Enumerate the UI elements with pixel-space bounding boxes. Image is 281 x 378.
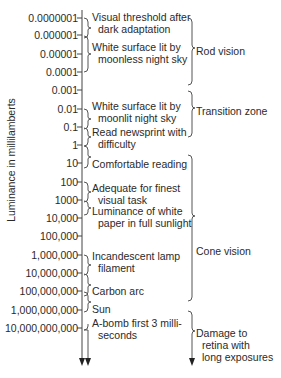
axis-ticks: [77, 18, 82, 328]
description-a-bomb: A-bomb first 3 milli- seconds: [92, 317, 182, 341]
tick-label: 10: [66, 157, 78, 169]
tick-label: 100,000,000: [20, 285, 78, 297]
description-moonlit-night: White surface lit by moonlit night sky: [92, 100, 181, 124]
tick-label: 0.0000001: [28, 12, 78, 24]
description-line: seconds: [92, 329, 182, 341]
tick-label: 100,000: [40, 230, 78, 242]
description-line: Adequate for finest: [92, 182, 180, 194]
tick-label: 0.00001: [40, 48, 78, 60]
luminance-scale-diagram: Luminance in millilamberts 0.0000001 0.0…: [0, 0, 281, 378]
description-line: Read newsprint with: [92, 126, 187, 138]
tick-label: 0.1: [63, 121, 78, 133]
description-line: White surface lit by: [92, 100, 181, 112]
tick-label: 1000: [55, 194, 78, 206]
tick-label: 1,000,000: [31, 249, 78, 261]
description-carbon-arc: Carbon arc: [92, 285, 144, 297]
description-line: Comfortable reading: [92, 158, 187, 170]
damage-arrowhead-icon: [189, 358, 195, 366]
tick-label: 0.001: [52, 84, 78, 96]
y-axis-label: Luminance in millilamberts: [5, 98, 17, 222]
description-line: A-bomb first 3 milli-: [92, 317, 182, 329]
zone-label: Transition zone: [196, 105, 267, 117]
description-comfortable-reading: Comfortable reading: [92, 158, 187, 170]
description-line: moonlit night sky: [92, 112, 181, 124]
zone-label: long exposures: [196, 351, 273, 363]
zone-braces: [188, 18, 195, 362]
description-incandescent-filament: Incandescent lamp filament: [92, 250, 180, 274]
description-line: Visual threshold after: [92, 11, 190, 23]
tick-label: 1,000,000,000: [11, 304, 78, 316]
tick-label: 0.000001: [34, 29, 78, 41]
description-line: dark adaptation: [92, 23, 190, 35]
description-line: Incandescent lamp: [92, 250, 180, 262]
tick-label: 1: [72, 139, 78, 151]
zone-rod-vision: Rod vision: [196, 45, 245, 57]
description-line: moonless night sky: [92, 53, 187, 65]
description-visual-threshold: Visual threshold after dark adaptation: [92, 11, 190, 35]
zone-label: Rod vision: [196, 45, 245, 57]
description-line: Luminance of white: [92, 205, 182, 217]
zone-label: Damage to: [196, 327, 247, 339]
description-newsprint: Read newsprint with difficulty: [92, 126, 187, 150]
description-finest-visual-task: Adequate for finest visual task: [92, 182, 180, 206]
description-line: paper in full sunlight: [92, 217, 191, 229]
tick-label: 100: [60, 176, 78, 188]
axis-arrowhead-icon: [79, 358, 85, 366]
tick-label: 0.0001: [46, 66, 78, 78]
tick-label: 10,000,000: [25, 267, 78, 279]
description-line: filament: [92, 262, 180, 274]
small-braces: [84, 18, 91, 362]
zone-cone-vision: Cone vision: [196, 245, 251, 257]
tick-label: 0.01: [58, 103, 78, 115]
abomb-arrowhead-icon: [85, 358, 91, 366]
description-sun: Sun: [92, 303, 111, 315]
description-line: difficulty: [92, 138, 187, 150]
description-moonless-night: White surface lit by moonless night sky: [92, 41, 187, 65]
tick-label: 10,000: [46, 212, 78, 224]
zone-label: retina with: [196, 339, 273, 351]
zone-label: Cone vision: [196, 245, 251, 257]
zone-transition: Transition zone: [196, 105, 267, 117]
tick-label: 10,000,000,000: [5, 322, 78, 334]
description-line: Carbon arc: [92, 285, 144, 297]
zone-retina-damage: Damage to retina with long exposures: [196, 327, 273, 363]
description-line: Sun: [92, 303, 111, 315]
description-line: White surface lit by: [92, 41, 181, 53]
description-white-paper-sunlight: Luminance of white paper in full sunligh…: [92, 205, 191, 229]
